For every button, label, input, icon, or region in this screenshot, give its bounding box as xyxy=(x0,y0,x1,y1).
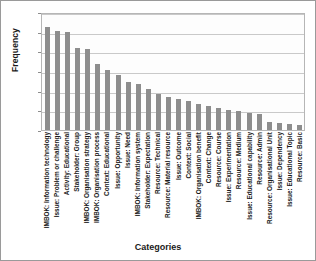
x-axis-tick-slot: Resource: Material resource xyxy=(166,132,171,230)
x-axis-tick-label: Issue: Outcome xyxy=(175,132,182,180)
x-axis-tick-label: Context: Change xyxy=(206,132,213,183)
x-axis-tick-label: Issue: Need xyxy=(124,132,131,168)
bar xyxy=(176,99,181,130)
x-axis-tick-slot: IMBOK: Organisation strategy xyxy=(85,132,90,230)
bar xyxy=(287,124,292,130)
bar xyxy=(85,49,90,130)
bar xyxy=(257,114,262,130)
x-axis-tick-label: Activity: Educational xyxy=(64,132,71,195)
x-axis-tick-label: IMBOK: Organisation benefit xyxy=(196,132,203,219)
x-axis-tick-slot: Issue: Dependency xyxy=(278,132,283,230)
x-axis-tick-label: Stakeholder: Group xyxy=(74,132,81,192)
bar xyxy=(226,110,231,130)
bar-series xyxy=(42,14,304,130)
x-axis-tick-slot: Issue: Educational capability xyxy=(247,132,252,230)
bar xyxy=(105,70,110,130)
x-axis-tick-slot: IMBOK: Information system xyxy=(135,132,140,230)
bar xyxy=(55,31,60,130)
x-axis-tick-slot: IMBOK: Organisation benefit xyxy=(196,132,201,230)
x-axis-tick-slot: Issue: Outcome xyxy=(176,132,181,230)
x-axis-tick-slot: IMBOK: Information technology xyxy=(44,132,49,230)
x-axis-tick-slot: Resource: Admin xyxy=(257,132,262,230)
x-axis-tick-label: IMBOK: Organisation strategy xyxy=(84,132,91,223)
x-axis-tick-slot: Issue: Educational Topic xyxy=(288,132,293,230)
bar xyxy=(126,82,131,130)
bar xyxy=(236,111,241,130)
x-axis-tick-label: Context: Educational xyxy=(104,132,111,196)
x-axis-tick-label: Issue: Problem or challenge xyxy=(53,132,60,217)
x-axis-tick-slot: Issue: Need xyxy=(125,132,130,230)
x-axis-tick-slot: IMBOK: Organisation process xyxy=(95,132,100,230)
x-axis-tick-label: Stakeholder: Expectation xyxy=(145,132,152,209)
bar xyxy=(196,104,201,130)
x-axis-tick-labels: IMBOK: Information technologyIssue: Prob… xyxy=(41,132,305,230)
x-axis-tick-slot: Issue: Problem or challenge xyxy=(54,132,59,230)
x-axis-tick-label: Issue: Opportunity xyxy=(114,132,121,189)
bar xyxy=(216,108,221,130)
bar xyxy=(166,97,171,130)
x-axis-tick-label: Issue: Experimentation xyxy=(226,132,233,202)
x-axis-tick-slot: Resource: Technical xyxy=(156,132,161,230)
x-axis-tick-slot: Context: Change xyxy=(207,132,212,230)
bar xyxy=(146,89,151,130)
bar xyxy=(186,101,191,130)
x-axis-tick-label: Issue: Dependency xyxy=(277,132,284,190)
x-axis-tick-slot: Issue: Experimentation xyxy=(227,132,232,230)
x-axis-tick-slot: Activity: Educational xyxy=(64,132,69,230)
x-axis-tick-slot: Resource: Organisational Unit xyxy=(267,132,272,230)
x-axis-tick-slot: Resource: Medium xyxy=(237,132,242,230)
bar xyxy=(95,64,100,130)
bar xyxy=(116,75,121,130)
x-axis-tick-label: IMBOK: Information technology xyxy=(43,132,50,228)
x-axis-tick-slot: Resource: Basic xyxy=(298,132,303,230)
x-axis-tick-slot: Issue: Opportunity xyxy=(115,132,120,230)
x-axis-tick-label: Resource: Technical xyxy=(155,132,162,194)
x-axis-tick-label: IMBOK: Organisation process xyxy=(94,132,101,223)
x-axis-tick-label: Issue: Educational Topic xyxy=(287,132,294,207)
x-axis-tick-label: Context: Social xyxy=(185,132,192,179)
x-axis-tick-slot: Context: Educational xyxy=(105,132,110,230)
bar xyxy=(277,123,282,130)
x-axis-tick-label: Resource: Course xyxy=(216,132,223,187)
x-axis-title: Categories xyxy=(1,242,315,252)
x-axis-tick-slot: Resource: Course xyxy=(217,132,222,230)
y-axis-title: Frequency xyxy=(10,14,20,86)
chart-figure: Frequency 020406080100120 IMBOK: Informa… xyxy=(0,0,316,261)
bar xyxy=(136,84,141,130)
x-axis-tick-label: Issue: Educational capability xyxy=(246,132,253,220)
x-axis-tick-label: Resource: Admin xyxy=(256,132,263,185)
bar xyxy=(156,94,161,130)
bar xyxy=(206,106,211,130)
x-axis-tick-label: IMBOK: Information system xyxy=(135,132,142,216)
x-axis-tick-label: Resource: Basic xyxy=(297,132,304,182)
x-axis-tick-label: Resource: Organisational Unit xyxy=(267,132,274,224)
x-axis-tick-slot: Context: Social xyxy=(186,132,191,230)
bar xyxy=(75,48,80,130)
bar xyxy=(45,27,50,130)
x-axis-tick-label: Resource: Medium xyxy=(236,132,243,189)
x-axis-tick-label: Resource: Material resource xyxy=(165,132,172,218)
bar xyxy=(267,122,272,130)
x-axis-tick-slot: Stakeholder: Expectation xyxy=(146,132,151,230)
bar xyxy=(65,32,70,130)
x-axis-tick-slot: Stakeholder: Group xyxy=(74,132,79,230)
plot-area xyxy=(41,13,305,131)
bar xyxy=(297,125,302,130)
bar xyxy=(247,113,252,130)
